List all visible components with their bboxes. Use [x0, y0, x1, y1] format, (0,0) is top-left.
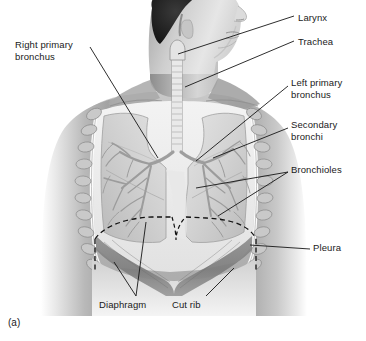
label-right-primary-bronchus: Right primary bronchus — [15, 39, 73, 62]
label-diaphragm: Diaphragm — [99, 299, 146, 311]
label-trachea: Trachea — [298, 36, 333, 48]
label-left-primary-bronchus: Left primary bronchus — [291, 77, 342, 100]
label-larynx: Larynx — [298, 12, 327, 24]
label-cut-rib: Cut rib — [172, 299, 201, 311]
respiratory-system-figure: Larynx Trachea Left primary bronchus Sec… — [0, 0, 366, 341]
label-bronchioles: Bronchioles — [291, 164, 342, 176]
figure-caption: (a) — [8, 317, 20, 328]
larynx — [170, 40, 185, 60]
label-pleura: Pleura — [313, 242, 341, 254]
label-secondary-bronchi: Secondary bronchi — [291, 119, 337, 142]
